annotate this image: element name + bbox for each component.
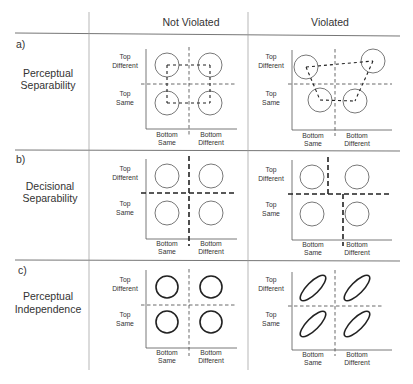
axis-label: Different — [344, 359, 370, 366]
axis-label: Top — [120, 90, 131, 98]
header-violated: Violated — [311, 16, 349, 28]
axis-label: Bottom — [200, 349, 222, 356]
axis-label: Bottom — [346, 132, 368, 139]
row-a-letter: a) — [16, 38, 25, 50]
row-divider-b — [15, 260, 400, 261]
axis-label: Top — [120, 200, 131, 208]
axis-label: Bottom — [156, 240, 178, 247]
axis-label: Bottom — [200, 131, 222, 138]
row-b-letter: b) — [16, 153, 25, 165]
axis-label: Top — [266, 90, 277, 98]
axis-label: Same — [116, 99, 134, 106]
axis-label: Bottom — [156, 131, 178, 138]
header-not-violated: Not Violated — [162, 16, 219, 28]
axis-label: Same — [158, 357, 176, 364]
axis-label: Bottom — [200, 240, 222, 247]
axis-label: Top — [266, 53, 277, 61]
row-c-letter: c) — [18, 264, 27, 276]
row-divider-a — [15, 150, 400, 151]
axis-label: Bottom — [346, 241, 368, 248]
axis-label: Top — [266, 311, 277, 319]
row-a-title-1: Perceptual — [23, 67, 73, 79]
axis-label: Different — [112, 285, 138, 292]
panel-c-not-violated: Top Different Top Same Bottom Same Botto… — [112, 269, 237, 364]
axis-label: Same — [304, 249, 322, 256]
axis-label: Top — [120, 165, 131, 173]
axis-label: Bottom — [302, 351, 324, 358]
axis-label: Same — [262, 320, 280, 327]
axis-label: Bottom — [302, 132, 324, 139]
row-b-title-1: Decisional — [26, 180, 74, 192]
axis-label: Same — [116, 209, 134, 216]
axis-label: Top — [266, 166, 277, 174]
axis-label: Same — [262, 99, 280, 106]
axis-label: Different — [258, 175, 284, 182]
axis-label: Top — [120, 53, 131, 61]
axis-label: Different — [198, 248, 224, 255]
axis-label: Different — [112, 174, 138, 181]
panel-b-not-violated: Top Different Top Same Bottom Same Botto… — [112, 156, 237, 255]
row-c-title-1: Perceptual — [23, 290, 73, 302]
axis-label: Same — [304, 359, 322, 366]
row-a-title-2: Separability — [21, 79, 77, 91]
row-b-title-2: Separability — [23, 192, 79, 204]
axis-label: Same — [116, 320, 134, 327]
panel-a-violated: Top Different Top Same Bottom Same Botto… — [258, 49, 392, 147]
axis-label: Same — [304, 140, 322, 147]
axis-label: Same — [158, 139, 176, 146]
panel-a-not-violated: Top Different Top Same Bottom Same Botto… — [112, 47, 237, 146]
axis-label: Different — [344, 249, 370, 256]
axis-label: Top — [266, 276, 277, 284]
axis-label: Different — [112, 62, 138, 69]
header-divider — [15, 33, 400, 36]
axis-label: Different — [344, 140, 370, 147]
gri-assumptions-diagram: Not Violated Violated a) Perceptual Sepa… — [0, 0, 413, 384]
axis-label: Different — [258, 285, 284, 292]
axis-label: Same — [262, 210, 280, 217]
row-c-title-2: Independence — [15, 303, 82, 315]
panel-b-violated: Top Different Top Same Bottom Same Botto… — [258, 157, 392, 256]
axis-label: Top — [120, 276, 131, 284]
panel-c-violated: Top Different Top Same Bottom Same Botto… — [258, 270, 392, 366]
axis-label: Bottom — [302, 241, 324, 248]
axis-label: Top — [120, 311, 131, 319]
axis-label: Bottom — [346, 351, 368, 358]
axis-label: Same — [158, 248, 176, 255]
axis-label: Different — [198, 357, 224, 364]
axis-label: Different — [258, 62, 284, 69]
axis-label: Bottom — [156, 349, 178, 356]
axis-label: Different — [198, 139, 224, 146]
axis-label: Top — [266, 201, 277, 209]
